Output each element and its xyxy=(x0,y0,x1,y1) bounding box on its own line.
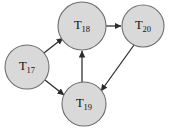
edge-t20-t19 xyxy=(101,45,134,91)
node-t20[interactable]: T20 xyxy=(122,5,164,47)
edge-t17-t18 xyxy=(44,38,63,53)
node-t19[interactable]: T19 xyxy=(62,82,106,126)
node-t17-subscript: 17 xyxy=(27,64,36,74)
node-t18[interactable]: T18 xyxy=(58,2,106,50)
graph-diagram: T17 T18 T20 T19 xyxy=(0,0,175,132)
node-t18-subscript: 18 xyxy=(82,23,91,33)
edge-t17-t19 xyxy=(45,80,64,95)
node-t19-subscript: 19 xyxy=(84,101,93,111)
node-t17[interactable]: T17 xyxy=(5,45,49,89)
node-group: T17 T18 T20 T19 xyxy=(5,2,164,126)
graph-canvas: T17 T18 T20 T19 xyxy=(0,0,175,132)
node-t20-subscript: 20 xyxy=(143,23,152,33)
